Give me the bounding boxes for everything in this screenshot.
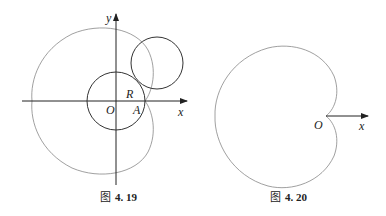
figure-caption-4-20: 图4. 20 xyxy=(270,192,307,203)
rolling-circle xyxy=(131,37,183,89)
point-a-label: A xyxy=(133,104,140,116)
x-axis-label: x xyxy=(178,106,183,118)
polar-axis-label: x xyxy=(359,120,364,132)
origin-label-2: O xyxy=(314,119,323,131)
cardioid-curve-2 xyxy=(215,46,337,188)
figure-4-20 xyxy=(215,46,368,188)
caption-number-2: 4. 20 xyxy=(285,191,307,203)
caption-prefix-2: 图 xyxy=(270,191,281,203)
figure-caption-4-19: 图4. 19 xyxy=(100,192,137,203)
diagram-canvas xyxy=(0,0,386,216)
radius-label: R xyxy=(126,88,133,100)
y-axis-label: y xyxy=(106,12,111,24)
origin-label: O xyxy=(106,104,115,116)
figure-4-19 xyxy=(22,14,187,185)
caption-prefix: 图 xyxy=(100,191,111,203)
caption-number: 4. 19 xyxy=(115,191,137,203)
